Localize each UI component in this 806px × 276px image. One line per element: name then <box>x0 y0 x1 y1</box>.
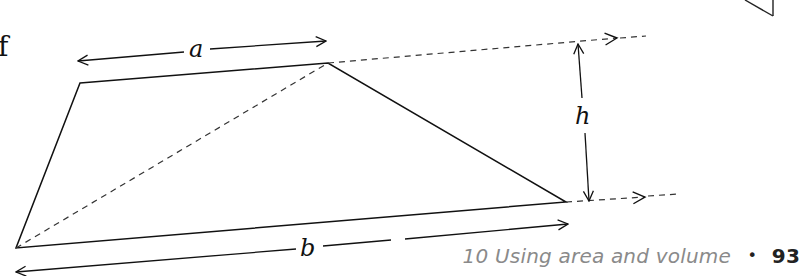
diagonal-dashed-line <box>16 63 328 248</box>
bullet-separator-icon: • <box>748 246 758 265</box>
trapezium-diagram: f h a b <box>0 0 806 276</box>
height-dimension-arrow: h <box>575 44 590 201</box>
top-side-label: a <box>189 35 203 63</box>
height-label: h <box>575 102 590 130</box>
bottom-side-label: b <box>300 234 315 262</box>
top-side-dimension-arrow: a <box>78 35 326 63</box>
bottom-parallel-extension <box>566 194 678 202</box>
chapter-title: Using area and volume <box>495 244 731 268</box>
page-footer: 10 Using area and volume • 93 <box>463 244 800 268</box>
top-parallel-extension <box>328 36 646 63</box>
trapezium-shape <box>16 63 566 248</box>
cropped-shape-fragment <box>745 0 773 16</box>
page-number: 93 <box>772 244 800 268</box>
chapter-number: 10 <box>463 244 489 268</box>
stray-letter: f <box>0 30 11 63</box>
